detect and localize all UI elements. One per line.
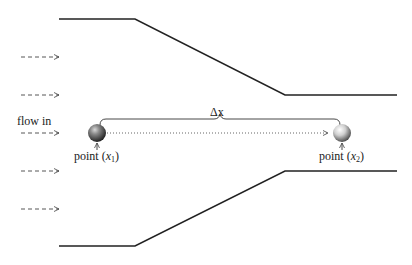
delta-x-label: Δx	[210, 106, 224, 118]
point-1-label: point (x1)	[74, 150, 119, 164]
point-1-suffix: )	[115, 149, 119, 163]
inflow-arrows	[21, 57, 59, 209]
point-2-label: point (x2)	[319, 150, 364, 164]
flow-in-label: flow in	[17, 115, 51, 127]
delta-x-text: Δx	[210, 105, 224, 119]
nozzle-diagram	[0, 0, 412, 265]
particle-sphere-1-icon	[88, 124, 106, 142]
point-2-prefix: point (	[319, 149, 351, 163]
top-wall	[59, 19, 397, 95]
particle-sphere-2-icon	[333, 124, 351, 142]
point-2-suffix: )	[360, 149, 364, 163]
bottom-wall	[59, 171, 397, 246]
point-1-prefix: point (	[74, 149, 106, 163]
